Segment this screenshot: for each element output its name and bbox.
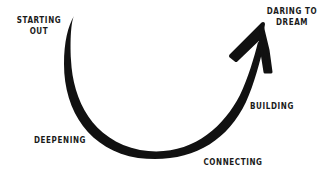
stage-label-connecting: CONNECTING bbox=[202, 157, 264, 169]
journey-diagram: STARTING OUT DARING TO DREAM DEEPENING B… bbox=[0, 0, 331, 180]
stage-label-starting-out: STARTING OUT bbox=[14, 15, 64, 38]
stage-label-deepening: DEEPENING bbox=[34, 135, 86, 147]
stage-label-line: DREAM bbox=[264, 17, 320, 29]
stage-label-line: OUT bbox=[14, 26, 64, 38]
stage-label-line: DARING TO bbox=[264, 6, 320, 18]
stage-label-line: CONNECTING bbox=[202, 157, 264, 169]
stage-label-line: DEEPENING bbox=[34, 135, 86, 147]
stage-label-line: BUILDING bbox=[249, 101, 295, 113]
stage-label-building: BUILDING bbox=[249, 101, 295, 113]
arrow-curve bbox=[64, 16, 264, 159]
stage-label-daring-to-dream: DARING TO DREAM bbox=[264, 6, 320, 29]
arrowhead-right-barb bbox=[260, 25, 271, 72]
stage-label-line: STARTING bbox=[14, 15, 64, 27]
